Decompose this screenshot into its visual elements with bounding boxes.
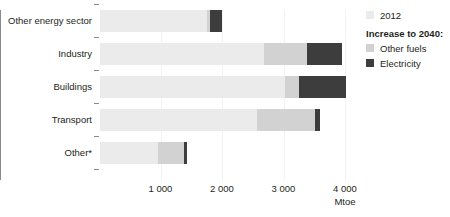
y-axis-tick xyxy=(94,169,99,170)
x-tick-label: 1 000 xyxy=(149,183,173,194)
category-label-transport: Transport xyxy=(0,109,92,131)
bar-segment-other-fuels xyxy=(257,109,314,131)
bar-segment-electricity xyxy=(299,76,346,98)
x-tick-label: 3 000 xyxy=(272,183,296,194)
bar-segment-electricity xyxy=(184,142,188,164)
chart-legend: 2012 Increase to 2040: Other fuels Elect… xyxy=(366,8,450,71)
bar-segment-electricity xyxy=(210,10,222,32)
x-axis-tick-labels: 1 0002 0003 0004 000 xyxy=(0,183,450,197)
bar-segment-electricity xyxy=(307,43,342,65)
bar-segment-other-fuels xyxy=(285,76,299,98)
bar-segment-2012 xyxy=(100,43,264,65)
bar-segment-other-fuels xyxy=(264,43,308,65)
y-axis-tick xyxy=(94,37,99,38)
category-label-other: Other* xyxy=(0,142,92,164)
stacked-bar xyxy=(100,10,222,32)
bar-segment-2012 xyxy=(100,142,158,164)
y-axis-tick xyxy=(94,70,99,71)
stacked-bar xyxy=(100,43,342,65)
bar-segment-electricity xyxy=(315,109,321,131)
x-axis-unit-label: Mtoe xyxy=(334,196,355,207)
legend-swatch-2012-icon xyxy=(366,11,374,19)
legend-item-other-fuels: Other fuels xyxy=(366,41,450,55)
bar-segment-2012 xyxy=(100,109,257,131)
stacked-bar xyxy=(100,142,187,164)
category-label-buildings: Buildings xyxy=(0,76,92,98)
legend-label-electricity: Electricity xyxy=(380,58,421,69)
y-axis-tick xyxy=(94,103,99,104)
bar-segment-2012 xyxy=(100,76,285,98)
category-label-other-energy-sector: Other energy sector xyxy=(0,10,92,32)
stacked-bar xyxy=(100,76,346,98)
legend-label-2012: 2012 xyxy=(380,10,401,21)
bar-segment-other-fuels xyxy=(158,142,183,164)
legend-heading-increase-to-2040: Increase to 2040: xyxy=(366,28,450,39)
y-axis-tick xyxy=(94,4,99,5)
bar-segment-2012 xyxy=(100,10,207,32)
x-tick-label: 2 000 xyxy=(210,183,234,194)
legend-swatch-other-fuels-icon xyxy=(366,44,374,52)
legend-item-2012: 2012 xyxy=(366,8,450,22)
x-tick-label: 4 000 xyxy=(333,183,357,194)
category-label-industry: Industry xyxy=(0,43,92,65)
stacked-bar xyxy=(100,109,320,131)
legend-swatch-electricity-icon xyxy=(366,59,374,67)
legend-label-other-fuels: Other fuels xyxy=(380,43,426,54)
y-axis-tick xyxy=(94,136,99,137)
legend-item-electricity: Electricity xyxy=(366,56,450,70)
stacked-bar-chart: Other energy sectorIndustryBuildingsTran… xyxy=(0,0,450,217)
